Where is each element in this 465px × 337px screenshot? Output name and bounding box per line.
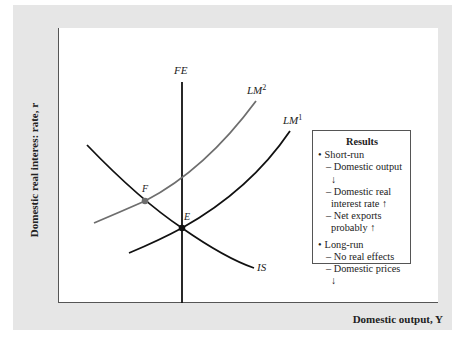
lm2-label: LM2 [247,83,266,96]
lm2-label-sup: 2 [262,83,266,92]
lm1-label-sup: 1 [298,113,302,122]
y-axis-label: Domestic real interes: rate, r [28,103,40,237]
point-e-label: E [184,211,190,222]
legend-long-run: Long-run [318,239,406,251]
x-axis-label: Domestic output, Y [353,313,443,325]
legend-long-item: – No real effects [323,251,406,263]
point-e-marker [179,225,186,232]
lm2-label-text: LM [247,84,262,96]
legend-short-run: Short-run [318,149,406,161]
fe-label: FE [174,64,187,76]
lm1-label: LM1 [283,113,302,126]
is-curve [87,145,254,268]
legend-short-item: – Domestic real interest rate ↑ [323,186,406,210]
legend-title: Results [318,136,406,148]
point-f-marker [142,198,149,205]
point-f-label: F [142,183,148,194]
is-label: IS [257,261,266,273]
legend-long-item: – Domestic prices ↓ [323,263,406,287]
lm2-curve [94,101,256,223]
lm1-curve [129,131,290,253]
lm1-label-text: LM [283,114,298,126]
legend-short-item: – Domestic output ↓ [323,161,406,185]
results-legend: Results Short-run – Domestic output ↓ – … [312,130,411,264]
legend-short-item: – Net exports probably ↑ [323,210,406,234]
